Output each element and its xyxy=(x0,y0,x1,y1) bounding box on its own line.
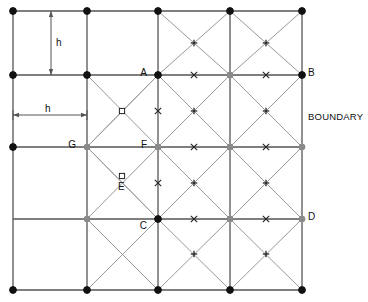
point-label-G: G xyxy=(68,140,76,150)
spacing-label-vertical: h xyxy=(56,38,62,48)
diagram-canvas: ABCDEFGhh BOUNDARY xyxy=(0,0,368,302)
point-label-E: E xyxy=(118,182,125,192)
mesh-node xyxy=(155,216,162,223)
mesh-node xyxy=(155,287,162,294)
mesh-node xyxy=(10,72,17,79)
mesh-node-open xyxy=(299,216,305,222)
mesh-node-open xyxy=(84,144,90,150)
marker-square xyxy=(119,173,124,178)
point-label-D: D xyxy=(308,212,315,222)
mesh-node-open xyxy=(155,144,161,150)
mesh-node xyxy=(299,287,306,294)
mesh-node xyxy=(84,287,91,294)
mesh-node-open xyxy=(227,216,233,222)
dimension-arrow xyxy=(49,11,53,17)
mesh-node xyxy=(155,72,162,79)
mesh-node xyxy=(299,8,306,15)
mesh-node xyxy=(227,287,234,294)
point-label-C: C xyxy=(140,221,147,231)
dimension-arrow xyxy=(13,113,19,117)
marker-square xyxy=(119,108,124,113)
mesh-node xyxy=(84,72,91,79)
mesh-node xyxy=(10,144,17,151)
boundary-label: BOUNDARY xyxy=(308,112,363,122)
mesh-node-open xyxy=(84,216,90,222)
spacing-label-horizontal: h xyxy=(45,104,51,114)
mesh-node xyxy=(10,287,17,294)
point-label-B: B xyxy=(308,68,315,78)
point-label-A: A xyxy=(140,68,147,78)
mesh-node xyxy=(227,8,234,15)
dimension-arrow xyxy=(49,69,53,75)
mesh-node xyxy=(155,8,162,15)
dimension-arrow xyxy=(81,113,87,117)
point-label-F: F xyxy=(141,140,147,150)
mesh-node xyxy=(84,8,91,15)
mesh-node xyxy=(10,8,17,15)
mesh-node-open xyxy=(299,144,305,150)
mesh-node xyxy=(299,72,306,79)
mesh-node-open xyxy=(227,72,233,78)
mesh-node-open xyxy=(227,144,233,150)
